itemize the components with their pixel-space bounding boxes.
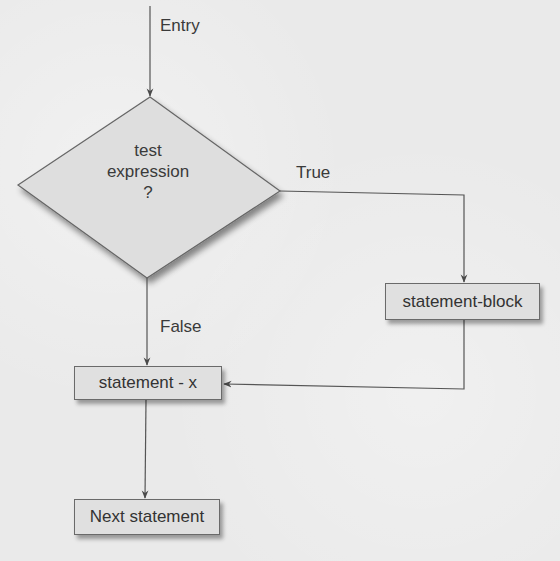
true-label: True <box>296 164 330 181</box>
next-arrow <box>145 400 146 498</box>
decision-line-1: test <box>60 140 236 161</box>
entry-label: Entry <box>160 17 200 34</box>
flowchart-svg <box>0 0 560 561</box>
merge-arrow <box>224 320 464 389</box>
decision-line-3: ? <box>60 182 236 203</box>
decision-line-2: expression <box>60 161 236 182</box>
next-statement-node: Next statement <box>74 499 220 535</box>
next-statement-text: Next statement <box>90 507 204 527</box>
statement-x-node: statement - x <box>74 366 222 400</box>
statement-x-text: statement - x <box>99 373 197 393</box>
false-label: False <box>160 318 202 335</box>
statement-block-text: statement-block <box>403 292 523 312</box>
statement-block-node: statement-block <box>385 283 540 320</box>
true-branch-arrow <box>280 191 464 282</box>
diagram-canvas: ​ Entry test expression <box>0 0 560 561</box>
decision-text: test expression ? <box>60 140 236 203</box>
